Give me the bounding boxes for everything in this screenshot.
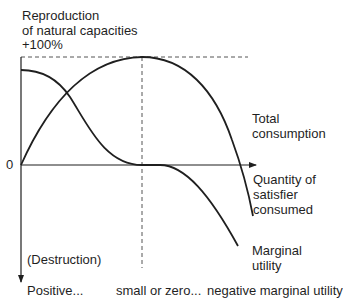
marginal-utility-curve <box>21 70 238 246</box>
destruction-label: (Destruction) <box>27 252 101 267</box>
y-axis-max-label: +100% <box>22 37 63 52</box>
x-axis-label-line1: Quantity of <box>253 172 316 187</box>
phase-positive-label: Positive... <box>27 283 83 298</box>
y-axis-title: Reproduction of natural capacities <box>22 8 138 38</box>
phase-small-zero-label: small or zero... <box>116 283 201 298</box>
y-axis-title-line2: of natural capacities <box>22 23 138 38</box>
x-axis-label-line3: consumed <box>253 202 316 217</box>
x-axis-label: Quantity of satisfier consumed <box>253 172 316 217</box>
x-axis-label-line2: satisfier <box>253 187 316 202</box>
total-consumption-line2: consumption <box>252 126 326 141</box>
phase-negative-label: negative marginal utility <box>207 283 343 298</box>
marginal-utility-line1: Marginal <box>252 243 302 258</box>
origin-label: 0 <box>6 157 13 172</box>
total-consumption-line1: Total <box>252 111 326 126</box>
marginal-utility-label: Marginal utility <box>252 243 302 273</box>
marginal-utility-line2: utility <box>252 258 302 273</box>
y-axis-title-line1: Reproduction <box>22 8 138 23</box>
total-consumption-label: Total consumption <box>252 111 326 141</box>
